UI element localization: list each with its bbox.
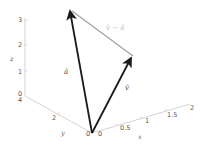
vector-v-minus-a-label: v̄ − ā	[106, 24, 124, 32]
y-tick-2: 2	[52, 114, 56, 122]
vector-v-label: v̄	[125, 84, 129, 92]
z-tick-2: 2	[18, 41, 22, 49]
y-tick-0: 0	[86, 130, 90, 138]
x-tick-1.5: 1.5	[167, 111, 177, 119]
axes	[25, 18, 190, 133]
vector-a-label: ā	[64, 68, 68, 76]
vector-a	[70, 11, 92, 133]
x-axis-label: x	[138, 133, 142, 141]
z-tick-3: 3	[18, 16, 22, 24]
vector-v	[92, 58, 131, 133]
z-axis-label: z	[9, 55, 14, 63]
vector-v-minus-a	[72, 11, 133, 56]
vector-diagram: 3 2 z 1 0 4 2 y 0 0 0.5 x 1 1.5 2 v̄ − ā…	[0, 0, 203, 147]
y-axis-label: y	[60, 129, 65, 137]
x-tick-0: 0	[98, 130, 102, 138]
z-tick-1: 1	[18, 68, 22, 76]
y-tick-4: 4	[18, 96, 22, 104]
x-tick-1: 1	[145, 117, 149, 125]
x-tick-0.5: 0.5	[120, 124, 130, 132]
x-tick-2: 2	[190, 104, 194, 112]
